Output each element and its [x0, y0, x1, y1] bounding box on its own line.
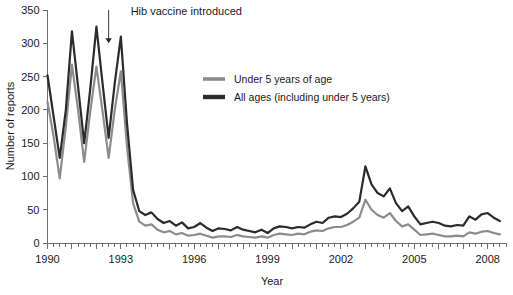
y-tick-label: 200 — [21, 104, 39, 116]
x-tick-label: 1996 — [182, 253, 206, 265]
y-axis-ticks: 050100150200250300350 — [21, 4, 47, 249]
y-tick-label: 350 — [21, 4, 39, 16]
x-tick-label: 2002 — [329, 253, 353, 265]
annotation-group: Hib vaccine introduced — [105, 5, 241, 43]
y-axis-title: Number of reports — [4, 81, 16, 170]
x-tick-label: 2005 — [402, 253, 426, 265]
annotation-label: Hib vaccine introduced — [131, 5, 242, 17]
y-tick-label: 300 — [21, 37, 39, 49]
legend-label: All ages (including under 5 years) — [234, 91, 390, 103]
data-series-group — [48, 27, 500, 238]
y-tick-label: 0 — [33, 237, 39, 249]
chart-figure: 050100150200250300350 199019931996199920… — [0, 0, 513, 295]
x-tick-label: 1993 — [109, 253, 133, 265]
legend-label: Under 5 years of age — [234, 73, 332, 85]
chart-legend: Under 5 years of ageAll ages (including … — [203, 73, 390, 103]
x-axis-ticks: 1990199319961999200220052008 — [35, 243, 506, 265]
x-tick-label: 1990 — [35, 253, 59, 265]
annotation-arrow-head — [105, 38, 111, 43]
line-chart-canvas: 050100150200250300350 199019931996199920… — [0, 0, 513, 295]
x-tick-label: 1999 — [255, 253, 279, 265]
y-tick-label: 150 — [21, 137, 39, 149]
y-tick-label: 250 — [21, 71, 39, 83]
y-tick-label: 100 — [21, 170, 39, 182]
x-tick-label: 2008 — [475, 253, 499, 265]
series-line — [48, 27, 500, 233]
y-tick-label: 50 — [27, 204, 39, 216]
x-axis-title: Year — [261, 275, 284, 287]
